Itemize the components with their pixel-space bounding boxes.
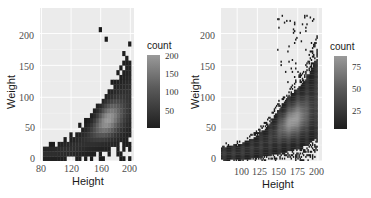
right-legend-label: 50 bbox=[352, 84, 361, 94]
right-x-tick: 100 bbox=[234, 166, 249, 177]
right-y-tick: 150 bbox=[200, 61, 215, 72]
right-y-tick: 0 bbox=[211, 153, 216, 164]
left-legend-title: count bbox=[147, 40, 171, 51]
left-heatmap bbox=[40, 8, 134, 161]
right-legend-colorbar bbox=[334, 56, 347, 129]
right-legend-label: 75 bbox=[352, 62, 361, 72]
right-legend-label: 25 bbox=[352, 106, 361, 116]
left-legend-label: 150 bbox=[165, 69, 179, 79]
left-y-tick: 0 bbox=[30, 153, 35, 164]
left-x-axis-title: Height bbox=[72, 175, 104, 187]
left-y-tick: 50 bbox=[25, 122, 35, 133]
right-legend-title: count bbox=[330, 41, 354, 52]
right-y-tick: 100 bbox=[200, 92, 215, 103]
right-y-tick: 200 bbox=[200, 30, 215, 41]
left-x-tick: 120 bbox=[64, 163, 79, 174]
left-x-tick: 160 bbox=[94, 163, 109, 174]
left-y-tick: 100 bbox=[19, 92, 34, 103]
right-x-tick: 125 bbox=[252, 166, 267, 177]
right-x-tick: 200 bbox=[309, 166, 324, 177]
right-x-tick: 175 bbox=[290, 166, 305, 177]
right-x-axis-title: Height bbox=[262, 178, 294, 190]
right-y-axis-title: Weight bbox=[189, 75, 201, 109]
left-y-tick: 200 bbox=[19, 30, 34, 41]
right-x-tick: 150 bbox=[271, 166, 286, 177]
right-y-tick: 50 bbox=[206, 122, 216, 133]
left-legend-label: 50 bbox=[165, 106, 174, 116]
left-y-tick: 150 bbox=[19, 61, 34, 72]
left-y-axis-title: Weight bbox=[5, 75, 17, 109]
left-x-tick: 200 bbox=[122, 163, 137, 174]
right-heatmap bbox=[221, 8, 322, 161]
left-legend-label: 100 bbox=[165, 87, 179, 97]
left-legend-colorbar bbox=[147, 55, 160, 128]
left-legend-label: 200 bbox=[165, 51, 179, 61]
left-x-tick: 80 bbox=[36, 163, 46, 174]
